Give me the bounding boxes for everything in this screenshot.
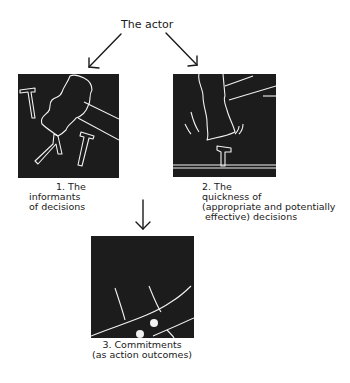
arrow-to-panel-2 <box>166 33 197 66</box>
caption-line: (as action outcomes) <box>86 350 198 360</box>
caption-line: effective) decisions <box>202 212 336 222</box>
nailed-surface-illustration <box>91 236 194 338</box>
caption-panel-3: 3. Commitments (as action outcomes) <box>86 340 198 360</box>
caption-panel-2: 2. The quickness of (appropriate and pot… <box>202 182 336 222</box>
panel-commitments <box>91 236 194 338</box>
hand-dropping-nails-illustration <box>18 74 119 178</box>
hand-hitting-nail-illustration <box>173 74 276 177</box>
diagram-title: The actor <box>121 18 173 31</box>
panel-informants <box>18 74 119 178</box>
caption-panel-1: 1. The informants of decisions <box>29 182 86 212</box>
arrow-to-panel-3 <box>136 200 150 229</box>
panel-quickness <box>173 74 276 177</box>
arrow-to-panel-1 <box>89 34 121 68</box>
caption-line: of decisions <box>29 202 86 212</box>
